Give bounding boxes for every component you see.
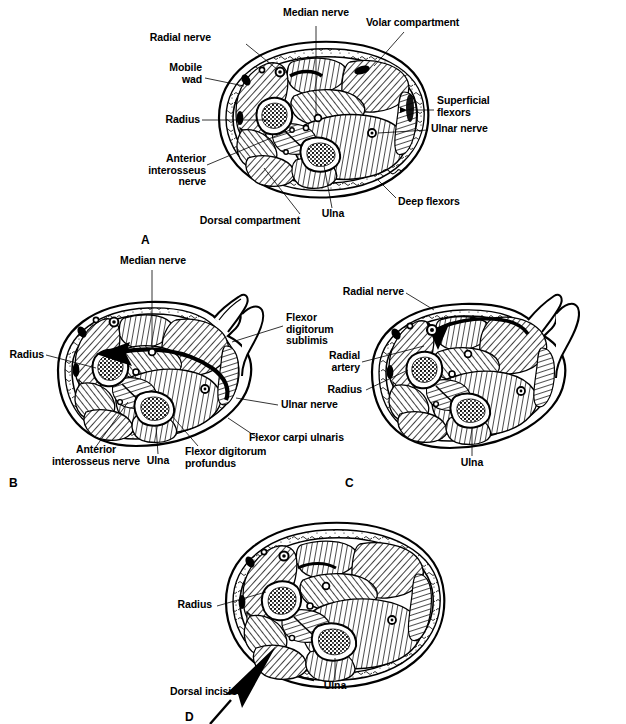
panel-c-cross-section xyxy=(372,295,579,448)
panel-letter-a: A xyxy=(141,233,150,247)
label-radial-artery-c: Radial artery xyxy=(306,350,360,373)
label-anterior-interosseus-nerve-a: Anterior interosseus nerve xyxy=(120,153,206,188)
label-superficial-flexors-a: Superficial flexors xyxy=(437,95,490,118)
panel-d-cross-section xyxy=(210,523,444,724)
panel-c: Radial nerve Radial artery Radius Ulna C xyxy=(300,250,626,495)
panel-a: Median nerve Volar compartment Radial ne… xyxy=(0,0,626,250)
label-radius-c: Radius xyxy=(308,384,362,396)
label-ulna-d: Ulna xyxy=(313,680,357,692)
label-radial-nerve-c: Radial nerve xyxy=(314,286,404,298)
anatomical-figure: Median nerve Volar compartment Radial ne… xyxy=(0,0,626,724)
label-deep-flexors-a: Deep flexors xyxy=(398,196,460,208)
panel-letter-b: B xyxy=(9,476,18,490)
label-dorsal-compartment-a: Dorsal compartment xyxy=(195,215,305,227)
label-ulnar-nerve-a: Ulnar nerve xyxy=(431,123,488,135)
label-flexor-digitorum-profundus-b: Flexor digitorum profundus xyxy=(185,446,266,469)
ulna-bone xyxy=(300,138,340,172)
label-ulna-c: Ulna xyxy=(450,457,494,469)
panel-d: Radius Dorsal incision Ulna D xyxy=(130,480,530,724)
label-mobile-wad-a: Mobile wad xyxy=(110,62,202,85)
panel-b-cross-section xyxy=(58,295,263,446)
radius-bone xyxy=(256,98,292,134)
label-radial-nerve-a: Radial nerve xyxy=(86,32,211,44)
label-dorsal-incision-d: Dorsal incision xyxy=(170,686,244,698)
label-ulna-b: Ulna xyxy=(136,455,180,467)
label-radius-a: Radius xyxy=(130,114,200,126)
label-radius-b: Radius xyxy=(0,349,44,361)
panel-letter-d: D xyxy=(185,710,194,724)
panel-b: Median nerve Flexor digitorum sublimis R… xyxy=(0,250,330,495)
label-volar-compartment-a: Volar compartment xyxy=(366,17,459,29)
label-radius-d: Radius xyxy=(154,599,212,611)
label-median-nerve-b: Median nerve xyxy=(105,255,201,267)
label-ulna-a: Ulna xyxy=(310,208,356,220)
